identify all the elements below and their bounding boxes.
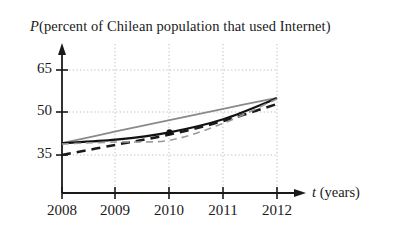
data-point-point-2010	[167, 129, 173, 135]
y-tick-label-50: 50	[22, 102, 52, 119]
x-axis-label-text: (years)	[320, 184, 360, 200]
y-axis-arrow	[58, 43, 66, 55]
x-axis-label: t (years)	[312, 184, 360, 201]
x-axis-arrow	[294, 189, 306, 197]
chart-figure: P(percent of Chilean population that use…	[0, 0, 395, 251]
x-axis	[62, 187, 306, 199]
y-axis	[56, 43, 68, 193]
x-tick-label-2010: 2010	[142, 202, 196, 219]
y-tick-label-35: 35	[22, 145, 52, 162]
series-gray-upper-line	[62, 98, 277, 143]
x-tick-label-2009: 2009	[88, 202, 142, 219]
y-tick-label-65: 65	[22, 60, 52, 77]
x-tick-label-2011: 2011	[196, 202, 250, 219]
x-tick-label-2008: 2008	[35, 202, 89, 219]
x-axis-label-variable: t	[312, 184, 316, 200]
vertical-gridlines	[115, 44, 277, 193]
x-tick-label-2012: 2012	[250, 202, 304, 219]
data-markers-layer	[167, 129, 173, 135]
